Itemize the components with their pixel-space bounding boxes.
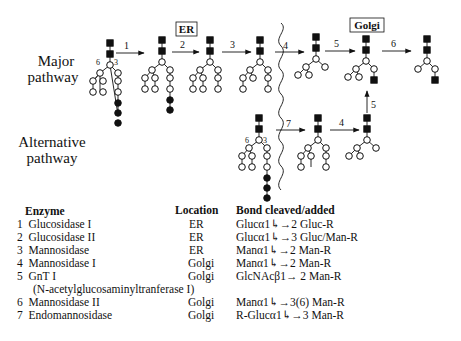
step-arrow-6: 6 bbox=[382, 38, 411, 51]
bond-cleavage-arrow-icon: ↳→ bbox=[270, 218, 291, 230]
step-arrow-5: 5 bbox=[325, 38, 355, 51]
svg-text:3: 3 bbox=[230, 39, 235, 50]
row-label-major: Major pathway bbox=[28, 53, 79, 85]
location-cell: ER bbox=[189, 231, 204, 244]
glycan-man8 bbox=[240, 37, 272, 92]
step-arrow-4: 4 bbox=[275, 40, 304, 52]
enzyme-name: Glucosidase I bbox=[29, 218, 92, 230]
svg-text:Golgi: Golgi bbox=[354, 19, 380, 31]
bond-cell: Manα1↳→2 Man-R bbox=[236, 244, 331, 257]
golgi-compartment-label: Golgi bbox=[350, 18, 384, 32]
location-cell: Golgi bbox=[188, 257, 214, 270]
location-header: Location bbox=[175, 204, 218, 217]
glycan-glc1man9: 6 3 bbox=[239, 115, 271, 202]
svg-text:6: 6 bbox=[245, 136, 249, 145]
er-compartment-label: ER bbox=[176, 22, 197, 36]
table-row: 7 Endomannosidase bbox=[17, 309, 112, 322]
svg-text:3: 3 bbox=[263, 136, 267, 145]
location-cell: Golgi bbox=[188, 296, 214, 309]
table-row: 1 Glucosidase I bbox=[17, 218, 91, 231]
svg-text:7: 7 bbox=[286, 118, 291, 129]
table-row: 2 Glucosidase II bbox=[17, 231, 95, 244]
step-arrow-3: 3 bbox=[222, 39, 251, 52]
bond-cell: Glucα1↳→3 Gluc/Man-R bbox=[236, 231, 358, 244]
bond-cell: R-Glucα1↳→3 Man-R bbox=[236, 309, 344, 322]
glycan-glcnacman5 bbox=[345, 36, 378, 83]
svg-text:ER: ER bbox=[179, 23, 195, 35]
svg-text:pathway: pathway bbox=[28, 69, 79, 85]
table-row: 4 Mannosidase I bbox=[17, 257, 96, 270]
svg-text:Major: Major bbox=[38, 53, 75, 69]
location-cell: ER bbox=[189, 218, 204, 231]
enzyme-header: Enzyme bbox=[25, 205, 65, 218]
table-row: 3 Mannosidase bbox=[17, 244, 89, 257]
svg-text:5: 5 bbox=[334, 38, 339, 49]
svg-text:6: 6 bbox=[391, 38, 396, 49]
bond-cleavage-arrow-icon: ↳→ bbox=[269, 296, 290, 308]
svg-text:2: 2 bbox=[180, 39, 185, 50]
enzyme-fullname: (N-acetylglucosaminyltranferase I) bbox=[33, 283, 194, 296]
step-arrow-4-alternative: 4 bbox=[330, 117, 359, 130]
glycan-man5 bbox=[295, 34, 329, 78]
location-cell: Golgi bbox=[188, 309, 214, 322]
glycan-glc2man9 bbox=[142, 37, 174, 114]
step-arrow-7: 7 bbox=[276, 118, 305, 130]
step-arrow-5-vertical: 5 bbox=[367, 91, 376, 113]
svg-text:1: 1 bbox=[124, 40, 129, 51]
bond-cleavage-arrow-icon: ↳→ bbox=[270, 231, 291, 243]
bond-cell: Manα1↳→2 Man-R bbox=[236, 257, 331, 270]
svg-text:Alternative: Alternative bbox=[18, 134, 86, 150]
bond-addition-arrow-icon: → bbox=[286, 270, 298, 282]
svg-text:6: 6 bbox=[96, 58, 100, 67]
table-row: 5 GnT I bbox=[17, 270, 56, 283]
glycan-man9 bbox=[190, 37, 222, 92]
glycan-man5-alternative bbox=[346, 115, 380, 160]
bond-header: Bond cleaved/added bbox=[236, 204, 335, 217]
bond-cell: Manα1↳→3(6) Man-R bbox=[236, 296, 345, 309]
row-number: 1 bbox=[17, 218, 23, 230]
svg-text:4: 4 bbox=[283, 40, 288, 51]
location-cell: Golgi bbox=[188, 270, 214, 283]
step-arrow-2: 2 bbox=[172, 39, 199, 52]
svg-text:pathway: pathway bbox=[27, 150, 78, 166]
bond-cleavage-arrow-icon: ↳→ bbox=[269, 244, 290, 256]
glycan-man8-isomer bbox=[298, 115, 330, 171]
bond-cell: Glucα1↳→2 Gluc-R bbox=[236, 218, 334, 231]
glycan-glcnacman3 bbox=[415, 36, 439, 83]
bond-cleavage-arrow-icon: ↳→ bbox=[269, 257, 290, 269]
svg-text:3: 3 bbox=[114, 58, 118, 67]
step-arrow-1: 1 bbox=[116, 40, 144, 53]
svg-text:5: 5 bbox=[371, 99, 376, 110]
row-label-alternative: Alternative pathway bbox=[18, 134, 86, 166]
svg-text:4: 4 bbox=[339, 117, 344, 128]
bond-cleavage-arrow-icon: ↳→ bbox=[282, 309, 303, 321]
location-cell: ER bbox=[189, 244, 204, 257]
table-row: 6 Mannosidase II bbox=[17, 296, 100, 309]
bond-cell: GlcNAcβ1→ 2 Man-R bbox=[236, 270, 342, 283]
